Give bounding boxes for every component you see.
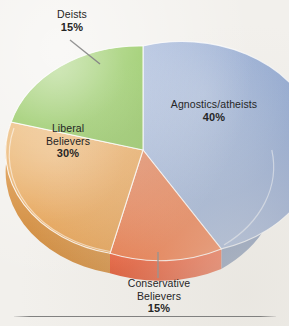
- slice-label-conservative-pct: 15%: [96, 302, 222, 315]
- slice-label-conservative: Conservative Believers 15%: [96, 277, 222, 315]
- slice-label-liberal-pct: 30%: [22, 147, 114, 160]
- slice-label-liberal-line1: Liberal: [22, 122, 114, 135]
- slice-label-liberal: Liberal Believers 30%: [22, 122, 114, 160]
- slice-label-agnostics-pct: 40%: [150, 111, 278, 124]
- slice-label-liberal-line2: Believers: [22, 135, 114, 148]
- slice-label-deists-pct: 15%: [32, 21, 112, 34]
- slice-label-deists-name: Deists: [32, 8, 112, 21]
- slice-label-deists: Deists 15%: [32, 8, 112, 33]
- slice-label-agnostics: Agnostics/atheists 40%: [150, 98, 278, 123]
- slice-label-conservative-line2: Believers: [96, 290, 222, 303]
- bottom-rule: [14, 316, 276, 317]
- slice-label-agnostics-name: Agnostics/atheists: [150, 98, 278, 111]
- chart-canvas: Deists 15% Agnostics/atheists 40% Libera…: [0, 0, 289, 326]
- slice-label-conservative-line1: Conservative: [96, 277, 222, 290]
